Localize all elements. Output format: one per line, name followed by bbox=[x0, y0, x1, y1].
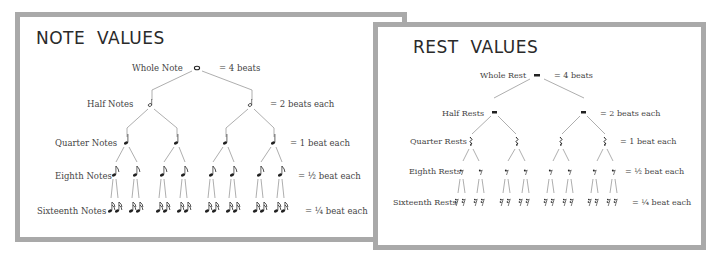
half-rest-icon bbox=[492, 111, 497, 114]
quarter-rest-icon bbox=[516, 137, 518, 146]
sixteenth-rests-row bbox=[455, 199, 618, 206]
whole-rest-icon bbox=[534, 74, 540, 77]
half-rest-icon bbox=[581, 111, 586, 114]
rest-tree-diagram bbox=[0, 0, 723, 261]
quarter-rest-icon bbox=[604, 137, 606, 146]
quarter-rest-icon bbox=[470, 137, 472, 146]
quarter-rest-icon bbox=[560, 137, 562, 146]
